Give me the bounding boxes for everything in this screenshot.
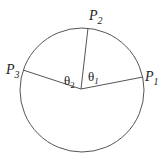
label-theta2: θ2 bbox=[64, 73, 75, 90]
label-p2: P2 bbox=[88, 8, 103, 26]
circle bbox=[20, 28, 144, 152]
circle-diagram: P2 P3 P1 θ2 θ1 bbox=[0, 0, 167, 160]
label-p3: P3 bbox=[5, 62, 20, 80]
label-p1: P1 bbox=[144, 69, 159, 87]
label-theta1: θ1 bbox=[88, 69, 99, 86]
radius-p2 bbox=[81, 28, 88, 89]
